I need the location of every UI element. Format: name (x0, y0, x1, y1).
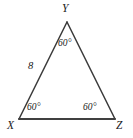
vertex-label-z: Z (116, 120, 123, 132)
angle-label-x: 60° (27, 103, 41, 113)
side-length-label-xy: 8 (28, 61, 33, 72)
angle-label-y: 60° (58, 39, 72, 49)
vertex-label-y: Y (62, 3, 69, 15)
geometry-figure: Y X Z 60° 60° 60° 8 (0, 0, 133, 138)
triangle-shape (0, 0, 133, 138)
vertex-label-x: X (7, 120, 14, 132)
angle-label-z: 60° (83, 103, 97, 113)
